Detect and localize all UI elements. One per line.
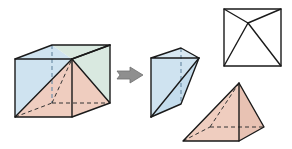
top-view-line-1 [224, 9, 248, 23]
top-view-figure [224, 9, 281, 66]
top-view-line-2 [248, 9, 281, 23]
diagram-canvas: A cube decomposed into a triangular pris… [0, 0, 292, 149]
top-view-line-4 [248, 23, 281, 66]
diagram-svg [0, 0, 292, 149]
pyramid-figure [183, 83, 264, 141]
top-view-square [224, 9, 281, 66]
top-view-line-3 [224, 23, 248, 66]
pyramid-right-face [239, 83, 264, 141]
arrow-icon [117, 67, 143, 83]
cube-figure [15, 45, 110, 117]
prism-figure [151, 48, 199, 117]
